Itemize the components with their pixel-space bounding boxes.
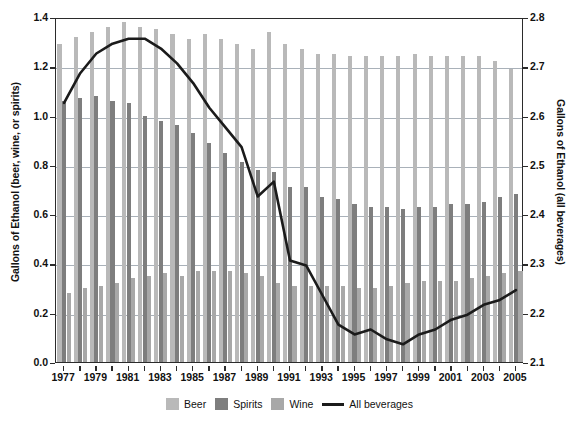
x-axis-tick-label: 2005: [495, 371, 535, 383]
y-axis-left-tick-label: 1.2: [12, 60, 48, 72]
bar-spirits: [256, 170, 260, 362]
bar-group: [104, 19, 120, 362]
bar-beer: [429, 56, 433, 362]
bar-wine: [341, 286, 345, 362]
bar-wine: [502, 273, 506, 362]
bar-wine: [518, 271, 522, 362]
y-axis-left-tick-label: 0.8: [12, 159, 48, 171]
bar-wine: [454, 281, 458, 362]
legend-label: Wine: [289, 398, 313, 410]
bar-beer: [57, 44, 61, 362]
chart-legend: BeerSpiritsWineAll beverages: [0, 394, 579, 414]
bar-spirits: [143, 116, 147, 362]
bar-spirits: [417, 207, 421, 362]
bar-spirits: [433, 207, 437, 362]
bar-spirits: [336, 199, 340, 362]
bar-wine: [405, 283, 409, 362]
y-axis-left-tick-label: 0.6: [12, 208, 48, 220]
bar-group: [508, 19, 524, 362]
bar-group: [476, 19, 492, 362]
bar-wine: [196, 271, 200, 362]
bar-group: [492, 19, 508, 362]
bar-spirits: [514, 194, 518, 362]
bar-wine: [438, 281, 442, 362]
bar-wine: [163, 273, 167, 362]
bar-beer: [90, 32, 94, 362]
bar-wine: [309, 286, 313, 362]
bar-wine: [83, 288, 87, 362]
bar-wine: [147, 276, 151, 362]
y-axis-right-tick-label: 2.3: [530, 257, 566, 269]
y-axis-right-tick-label: 2.4: [530, 208, 566, 220]
bar-groups: [56, 19, 522, 362]
legend-line-marker: [322, 403, 344, 406]
bar-spirits: [498, 197, 502, 362]
y-axis-right-tick-label: 2.6: [530, 110, 566, 122]
bar-beer: [74, 37, 78, 362]
legend-item-beer: Beer: [166, 398, 206, 410]
x-axis-ticks: 1977197919811983198519871989199119931995…: [55, 366, 523, 382]
bar-beer: [170, 34, 174, 362]
bar-group: [411, 19, 427, 362]
y-axis-right-tickmark: [523, 363, 528, 364]
y-axis-left-tick-label: 0.0: [12, 356, 48, 368]
bar-spirits: [175, 125, 179, 362]
bar-group: [234, 19, 250, 362]
bar-wine: [99, 286, 103, 362]
bar-beer: [461, 56, 465, 362]
bar-group: [88, 19, 104, 362]
bar-beer: [219, 39, 223, 362]
bar-spirits: [62, 101, 66, 362]
bar-spirits: [110, 101, 114, 362]
bar-beer: [509, 69, 513, 362]
bar-beer: [138, 27, 142, 362]
bar-group: [250, 19, 266, 362]
y-axis-right-tick-label: 2.1: [530, 356, 566, 368]
bar-wine: [422, 281, 426, 362]
bar-spirits: [272, 172, 276, 362]
bar-beer: [106, 27, 110, 362]
bar-spirits: [94, 96, 98, 362]
bar-spirits: [369, 207, 373, 362]
bar-group: [121, 19, 137, 362]
bar-beer: [187, 39, 191, 362]
y-axis-left-tickmark: [50, 363, 55, 364]
bar-wine: [292, 286, 296, 362]
bar-wine: [276, 283, 280, 362]
bar-beer: [235, 44, 239, 362]
bar-beer: [316, 54, 320, 362]
bar-beer: [154, 29, 158, 362]
bar-group: [346, 19, 362, 362]
bar-group: [169, 19, 185, 362]
bar-spirits: [207, 143, 211, 362]
legend-item-all-beverages: All beverages: [322, 398, 413, 410]
y-axis-right-tick-label: 2.7: [530, 60, 566, 72]
bar-wine: [325, 286, 329, 362]
bar-group: [185, 19, 201, 362]
legend-swatch: [271, 398, 284, 410]
bar-spirits: [159, 121, 163, 363]
bar-spirits: [320, 197, 324, 362]
bar-wine: [67, 293, 71, 362]
bar-group: [201, 19, 217, 362]
bar-group: [298, 19, 314, 362]
bar-spirits: [223, 153, 227, 362]
bar-beer: [493, 61, 497, 362]
bar-group: [379, 19, 395, 362]
bar-spirits: [385, 207, 389, 362]
bar-group: [395, 19, 411, 362]
bar-wine: [373, 288, 377, 362]
bar-spirits: [78, 98, 82, 362]
bar-wine: [260, 276, 264, 362]
bar-beer: [445, 56, 449, 362]
bar-group: [427, 19, 443, 362]
bar-group: [56, 19, 72, 362]
bar-beer: [332, 54, 336, 362]
bar-group: [217, 19, 233, 362]
bar-spirits: [304, 187, 308, 362]
bar-beer: [364, 56, 368, 362]
y-axis-right-tick-label: 2.2: [530, 307, 566, 319]
legend-label: All beverages: [349, 398, 413, 410]
y-axis-left-tick-label: 1.4: [12, 11, 48, 23]
y-axis-left-tick-label: 0.2: [12, 307, 48, 319]
